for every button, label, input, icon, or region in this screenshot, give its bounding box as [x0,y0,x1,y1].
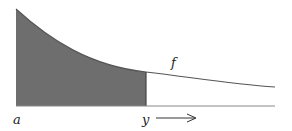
label-y: y [142,113,149,126]
label-a: a [13,113,21,126]
shaded-area [16,9,146,106]
label-f: f [171,56,176,69]
